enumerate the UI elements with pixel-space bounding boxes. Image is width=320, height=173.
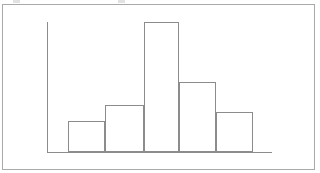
bars-group [69, 23, 253, 152]
bar-4[interactable] [180, 83, 216, 152]
bar-3[interactable] [145, 23, 179, 152]
figure-root [0, 0, 320, 173]
plot-area [0, 0, 320, 173]
histogram-chart [0, 0, 320, 173]
bar-5[interactable] [217, 113, 253, 152]
bar-2[interactable] [106, 106, 144, 152]
bar-1[interactable] [69, 122, 105, 152]
